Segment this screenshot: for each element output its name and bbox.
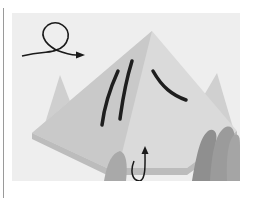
page-edge-line (3, 8, 4, 198)
origami-illustration (12, 13, 240, 181)
origami-photo (12, 13, 240, 181)
